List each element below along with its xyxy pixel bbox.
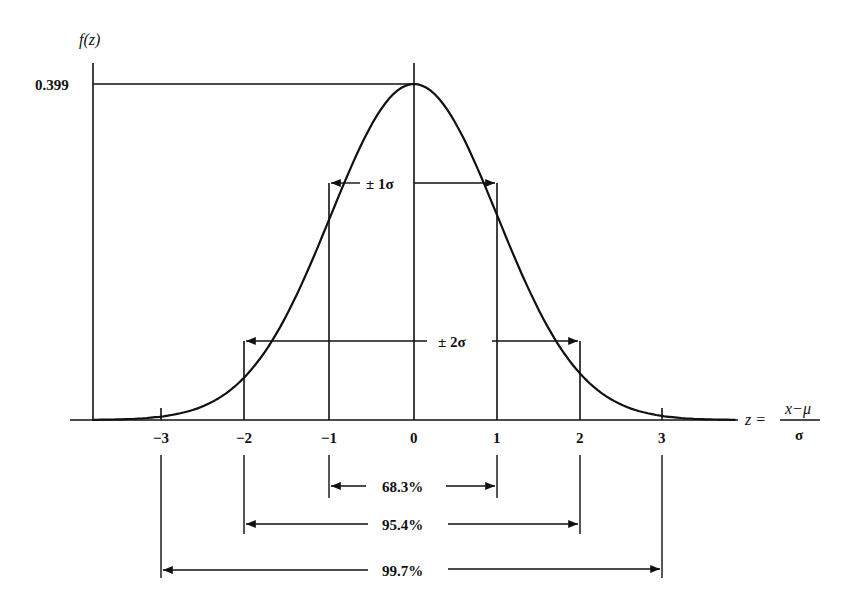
x-tick-labels: −3 −2 −1 0 1 2 3 bbox=[153, 430, 666, 446]
one-sigma-label: ± 1σ bbox=[366, 176, 394, 192]
svg-text:z =: z = bbox=[744, 411, 766, 428]
normal-distribution-diagram: ± 1σ ± 2σ f(z) 0.399 −3 −2 −1 0 1 2 3 z … bbox=[0, 0, 852, 614]
pct-99-label: 99.7% bbox=[382, 563, 423, 579]
svg-text:−2: −2 bbox=[236, 430, 252, 446]
svg-text:−3: −3 bbox=[153, 430, 169, 446]
svg-text:0: 0 bbox=[410, 430, 418, 446]
svg-text:x−μ: x−μ bbox=[784, 400, 811, 418]
svg-text:3: 3 bbox=[658, 430, 666, 446]
svg-text:−1: −1 bbox=[321, 430, 337, 446]
svg-text:1: 1 bbox=[493, 430, 501, 446]
pct-68-label: 68.3% bbox=[382, 479, 423, 495]
z-formula: z = x−μ σ bbox=[744, 400, 820, 443]
pct-95-label: 95.4% bbox=[382, 517, 423, 533]
svg-text:2: 2 bbox=[576, 430, 584, 446]
peak-value-label: 0.399 bbox=[35, 77, 69, 93]
y-axis-label: f(z) bbox=[79, 31, 100, 49]
two-sigma-label: ± 2σ bbox=[438, 334, 466, 350]
svg-text:σ: σ bbox=[795, 427, 804, 443]
